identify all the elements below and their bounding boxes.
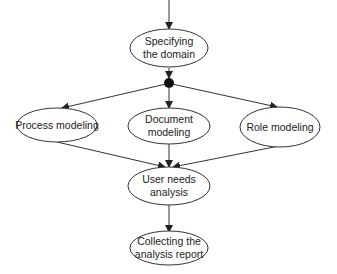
node-role-label: Role modeling: [246, 121, 313, 134]
node-collecting-line2: analysis report: [135, 248, 203, 261]
edge-fork-to-process: [62, 84, 166, 108]
node-role-line1: Role modeling: [246, 121, 313, 134]
node-specifying-label: Specifying the domain: [143, 35, 195, 61]
node-specifying-line1: Specifying: [143, 35, 195, 48]
node-document-line1: Document: [145, 113, 193, 126]
node-userneeds-line2: analysis: [142, 186, 196, 199]
node-document-label: Document modeling: [145, 113, 193, 139]
node-specifying-line2: the domain: [143, 48, 195, 61]
edge-fork-to-role: [172, 84, 277, 107]
fork-junction-dot: [164, 78, 174, 88]
edge-process-to-userneeds: [57, 142, 165, 167]
node-collecting-label: Collecting the analysis report: [135, 235, 203, 261]
node-process-line1: Process modeling: [15, 119, 98, 132]
node-userneeds-line1: User needs: [142, 173, 196, 186]
node-process-label: Process modeling: [15, 119, 98, 132]
node-collecting-line1: Collecting the: [135, 235, 203, 248]
node-document-line2: modeling: [145, 126, 193, 139]
node-userneeds-label: User needs analysis: [142, 173, 196, 199]
edge-role-to-userneeds: [173, 146, 279, 167]
